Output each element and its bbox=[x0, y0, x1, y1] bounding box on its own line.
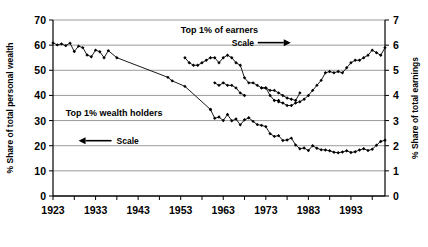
data-point-marker bbox=[336, 151, 339, 154]
series-line bbox=[185, 55, 279, 100]
x-tick-label: 1953 bbox=[169, 204, 193, 216]
data-point-marker bbox=[383, 46, 386, 49]
data-point-marker bbox=[324, 148, 327, 151]
series-line bbox=[53, 43, 210, 110]
earnings-series-label: Top 1% of earners bbox=[181, 25, 258, 35]
y-tick-label-left: 50 bbox=[34, 64, 46, 76]
y-tick-label-left: 30 bbox=[34, 115, 46, 127]
data-point-marker bbox=[366, 149, 369, 152]
y-tick-label-right: 1 bbox=[393, 165, 399, 177]
x-tick-label: 1943 bbox=[126, 204, 150, 216]
y-tick-label-left: 70 bbox=[34, 14, 46, 26]
y-tick-label-right: 2 bbox=[393, 140, 399, 152]
data-point-marker bbox=[324, 71, 327, 74]
data-point-marker bbox=[332, 71, 335, 74]
data-point-marker bbox=[56, 43, 59, 46]
data-point-marker bbox=[285, 138, 288, 141]
series-earners bbox=[183, 46, 386, 107]
data-point-marker bbox=[362, 147, 365, 150]
y-tick-label-right: 0 bbox=[393, 190, 399, 202]
y-tick-label-left: 20 bbox=[34, 140, 46, 152]
chart-container: 7060504030201007654321019231933194319531… bbox=[0, 0, 428, 247]
y-tick-label-left: 10 bbox=[34, 165, 46, 177]
wealth-series-label: Top 1% wealth holders bbox=[66, 108, 163, 118]
x-tick-label: 1983 bbox=[297, 204, 321, 216]
data-point-marker bbox=[51, 41, 54, 44]
y-tick-label-right: 3 bbox=[393, 115, 399, 127]
x-tick-label: 1933 bbox=[84, 204, 108, 216]
y-tick-label-right: 7 bbox=[393, 14, 399, 26]
y-axis-title-right: % Share of total earnings bbox=[410, 57, 420, 159]
data-point-marker bbox=[383, 138, 386, 141]
data-point-marker bbox=[260, 124, 263, 127]
data-point-marker bbox=[349, 151, 352, 154]
y-tick-label-left: 40 bbox=[34, 89, 46, 101]
x-tick-label: 1963 bbox=[212, 204, 236, 216]
data-point-marker bbox=[290, 98, 293, 101]
data-point-marker bbox=[319, 148, 322, 151]
data-point-marker bbox=[354, 150, 357, 153]
y-tick-label-right: 6 bbox=[393, 39, 399, 51]
y-tick-label-left: 0 bbox=[40, 190, 46, 202]
y-tick-label-left: 60 bbox=[34, 39, 46, 51]
y-tick-label-right: 5 bbox=[393, 64, 399, 76]
data-point-marker bbox=[358, 148, 361, 151]
series-line bbox=[279, 48, 385, 106]
series-line bbox=[210, 110, 385, 153]
x-tick-label: 1973 bbox=[254, 204, 278, 216]
data-point-marker bbox=[332, 151, 335, 154]
x-tick-label: 1923 bbox=[41, 204, 65, 216]
data-point-marker bbox=[345, 149, 348, 152]
data-point-marker bbox=[328, 149, 331, 152]
y-axis-title-left: % Share of total personal wealth bbox=[5, 43, 15, 174]
x-tick-label: 1993 bbox=[339, 204, 363, 216]
scale-arrow-left-head-icon bbox=[79, 137, 86, 144]
earnings-scale-label: Scale bbox=[232, 38, 254, 48]
data-point-marker bbox=[341, 150, 344, 153]
data-point-marker bbox=[213, 117, 216, 120]
line-chart: 7060504030201007654321019231933194319531… bbox=[0, 0, 428, 247]
wealth-scale-label: Scale bbox=[117, 136, 139, 146]
series-wealth-holders bbox=[51, 41, 386, 154]
y-tick-label-right: 4 bbox=[393, 89, 399, 101]
